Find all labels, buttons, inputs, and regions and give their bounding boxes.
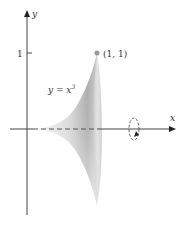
y-axis-label: y (31, 9, 38, 19)
y-tick-label: 1 (17, 49, 23, 59)
y-axis: y 1 (17, 9, 38, 215)
x-axis-arrow-icon (169, 126, 176, 132)
point-label: (1, 1) (103, 49, 127, 59)
point-marker (95, 51, 100, 56)
y-axis-arrow-icon (24, 10, 30, 17)
curve-equation: y = x3 (47, 83, 75, 95)
x-axis-label: x (170, 113, 175, 123)
solid-of-revolution-diagram: x y 1 (1, 1) y = x3 (0, 0, 188, 228)
